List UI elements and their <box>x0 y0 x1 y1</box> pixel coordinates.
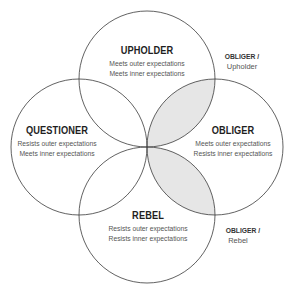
rebel-title: REBEL <box>109 209 186 221</box>
rebel-line-2: Resists inner expectations <box>108 234 187 244</box>
rebel-line-1: Resists outer expectations <box>108 224 187 234</box>
obliger-rebel-title: OBLIGER / <box>226 226 261 236</box>
obliger-line-1: Meets outer expectations <box>194 139 273 149</box>
obliger-upholder-sub: Upholder <box>223 62 261 72</box>
questioner-label: QUESTIONER Resists outer expectations Me… <box>13 124 101 159</box>
upholder-line-1: Meets outer expectations <box>109 59 184 69</box>
obliger-upholder-title: OBLIGER / <box>225 52 260 62</box>
obliger-upholder-annotation: OBLIGER / Upholder <box>223 52 261 72</box>
upholder-label: UPHOLDER Meets outer expectations Meets … <box>105 44 189 79</box>
obliger-rebel-sub: Rebel <box>214 236 262 246</box>
rebel-label: REBEL Resists outer expectations Resists… <box>104 209 192 244</box>
obliger-line-2: Resists inner expectations <box>194 149 273 159</box>
obliger-rebel-annotation: OBLIGER / Rebel <box>224 226 262 246</box>
obliger-title: OBLIGER <box>194 124 271 136</box>
questioner-line-1: Resists outer expectations <box>17 139 96 149</box>
upholder-line-2: Meets inner expectations <box>109 69 184 79</box>
upholder-title: UPHOLDER <box>110 44 184 56</box>
questioner-title: QUESTIONER <box>18 124 95 136</box>
questioner-line-2: Meets inner expectations <box>17 149 96 159</box>
obliger-label: OBLIGER Meets outer expectations Resists… <box>189 124 277 159</box>
